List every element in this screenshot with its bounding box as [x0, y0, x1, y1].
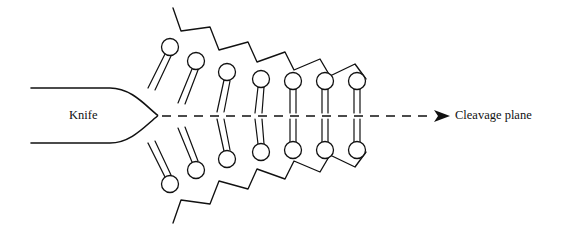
lipid-head-group [285, 142, 302, 159]
lipid-head-group [219, 64, 236, 81]
lipid-tail [148, 143, 165, 177]
upper-leaflet [148, 8, 366, 113]
lipid-unit-lower-2 [178, 127, 205, 179]
lipid-unit-lower-6 [317, 119, 334, 159]
lipid-tail [185, 70, 198, 104]
lipid-tail [255, 119, 258, 144]
cleavage-plane-arrow [162, 110, 450, 122]
lower-hydrocarbon-chain [173, 152, 366, 223]
lipid-unit-lower-3 [217, 119, 236, 168]
lipid-unit-upper-7 [349, 73, 366, 114]
lipid-head-group [188, 162, 205, 179]
arrow-head-icon [434, 110, 450, 122]
lipid-head-group [349, 73, 366, 90]
lipid-tail [262, 119, 264, 144]
lipid-unit-upper-1 [148, 39, 179, 91]
lipid-tail [155, 56, 171, 90]
lipid-unit-upper-4 [253, 71, 270, 114]
lipid-tail [217, 119, 224, 151]
lipid-unit-upper-6 [317, 73, 334, 114]
lipid-head-group [317, 142, 334, 159]
lipid-head-group [317, 73, 334, 90]
lipid-tail [185, 127, 198, 161]
lipid-tail [178, 128, 192, 162]
lipid-unit-upper-3 [217, 64, 236, 113]
upper-hydrocarbon-chain [173, 8, 366, 79]
lipid-unit-lower-1 [148, 141, 179, 193]
cleavage-plane-label: Cleavage plane [455, 109, 532, 122]
lipid-tail [148, 54, 165, 88]
lipid-head-group [162, 39, 179, 56]
lipid-tail [224, 81, 230, 112]
lipid-unit-lower-5 [285, 119, 302, 159]
lipid-head-group [162, 176, 179, 193]
lipid-head-group [253, 144, 270, 161]
lipid-tail [178, 69, 192, 103]
lipid-unit-upper-5 [285, 73, 302, 114]
lipid-unit-upper-2 [178, 53, 205, 105]
lipid-head-group [188, 53, 205, 70]
lipid-head-group [253, 71, 270, 88]
lipid-unit-lower-4 [253, 119, 270, 161]
lipid-tail [224, 119, 230, 150]
lipid-tail [155, 141, 171, 175]
freeze-fracture-diagram: Knife Cleavage plane [0, 0, 572, 228]
lipid-head-group [219, 151, 236, 168]
lipid-tail [217, 80, 224, 112]
lipid-head-group [349, 142, 366, 159]
lower-leaflet [148, 119, 366, 223]
lipid-tail [255, 87, 258, 113]
lipid-tail [262, 87, 264, 113]
lipid-unit-lower-7 [349, 119, 366, 159]
lipid-head-group [285, 73, 302, 90]
knife-label: Knife [69, 109, 97, 122]
